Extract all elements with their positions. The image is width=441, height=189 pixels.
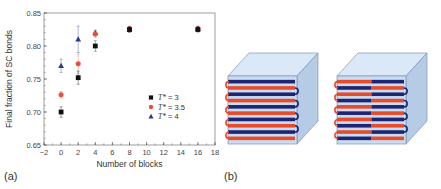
x-tick-label: 18 bbox=[211, 148, 219, 157]
y-axis-label: Final fraction of SC bonds bbox=[4, 30, 14, 128]
x-tick-label: 14 bbox=[177, 148, 185, 157]
x-tick-label: 12 bbox=[160, 148, 168, 157]
polymer-cube-diagram bbox=[220, 0, 441, 189]
legend-entry: T* = 3 bbox=[158, 93, 179, 102]
scatter-chart: −20246810121416180.650.700.750.800.85Num… bbox=[0, 0, 220, 189]
x-tick-label: 10 bbox=[142, 148, 150, 157]
x-tick-label: 2 bbox=[76, 148, 80, 157]
x-tick-label: 8 bbox=[127, 148, 131, 157]
legend: T* = 3T* = 3.5T* = 4 bbox=[148, 93, 184, 121]
legend-entry: T* = 4 bbox=[158, 112, 179, 121]
multiblock-cube bbox=[335, 53, 427, 144]
x-tick-label: 0 bbox=[59, 148, 63, 157]
legend-entry: T* = 3.5 bbox=[158, 103, 185, 112]
y-tick-label: 0.80 bbox=[26, 42, 41, 51]
y-tick-label: 0.85 bbox=[26, 9, 41, 18]
plot-frame bbox=[44, 13, 215, 145]
series-circle bbox=[59, 26, 201, 98]
x-tick-label: −2 bbox=[40, 148, 49, 157]
y-tick-label: 0.70 bbox=[26, 108, 41, 117]
x-axis-label: Number of blocks bbox=[96, 159, 162, 169]
x-tick-label: 16 bbox=[194, 148, 202, 157]
y-tick-label: 0.75 bbox=[26, 75, 41, 84]
x-tick-label: 6 bbox=[110, 148, 114, 157]
y-tick-label: 0.65 bbox=[26, 141, 41, 150]
homopolymer-block-cube bbox=[226, 53, 318, 144]
panel-label-a: (a) bbox=[4, 170, 17, 182]
panel-label-b: (b) bbox=[224, 170, 237, 182]
x-tick-label: 4 bbox=[93, 148, 97, 157]
